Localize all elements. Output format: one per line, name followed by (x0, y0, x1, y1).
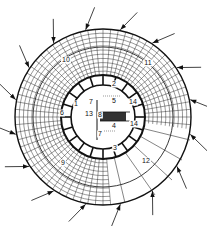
zone-label-9: 9 (61, 159, 65, 166)
zone-label-13: 13 (85, 110, 93, 117)
entrance-arrow-icon (111, 204, 120, 226)
zone-label-8: 8 (98, 111, 102, 118)
zone-label-1: 1 (74, 100, 78, 107)
entrance-arrow-icon (0, 125, 16, 134)
entrance-arrow-icon (190, 100, 207, 109)
zone-label-14b: 14 (130, 120, 138, 127)
zone-label-7b: 7 (98, 130, 102, 137)
entrance-arrow-icon (20, 45, 29, 67)
zone-label-10: 10 (62, 56, 70, 63)
entrance-arrow-icon (150, 191, 154, 215)
zone-label-7a: 7 (89, 98, 93, 105)
entrance-arrow-icon (152, 34, 174, 43)
zone-label-12: 12 (142, 157, 150, 164)
entrance-arrow-icon (86, 7, 95, 29)
zone-label-5: 5 (112, 97, 116, 104)
entrance-arrow-icon (5, 164, 29, 168)
zone-label-2: 2 (112, 80, 116, 87)
zone-label-3: 3 (113, 144, 117, 151)
entrance-arrow-icon (51, 19, 55, 43)
entrance-arrow-icon (31, 191, 53, 200)
entrance-arrow-icon (0, 83, 16, 100)
entrance-arrow-icon (190, 134, 207, 151)
stadium-floor-plan: 1234567789101112131414 (0, 0, 207, 226)
entrance-arrow-icon (177, 166, 186, 188)
zone-label-4: 4 (112, 122, 116, 129)
entrance-arrow-icon (177, 65, 201, 69)
zone-label-6: 6 (60, 109, 64, 116)
zone-label-14a: 14 (129, 98, 137, 105)
entrance-arrow-icon (120, 12, 137, 29)
entrance-arrow-icon (69, 204, 86, 221)
zone-label-11: 11 (144, 59, 151, 66)
